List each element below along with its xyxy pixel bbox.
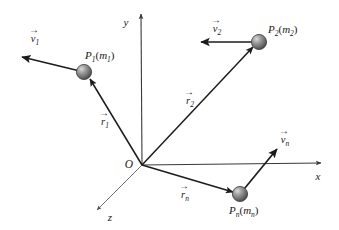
x-axis-line xyxy=(142,163,321,165)
position-vector-r1-arrow xyxy=(90,79,142,165)
x-axis-label: x xyxy=(315,170,321,182)
p1-paren-close: ) xyxy=(111,49,115,62)
coordinate-axes xyxy=(97,14,321,210)
vn-vector-accent-icon: → xyxy=(279,125,289,136)
vn-sub: n xyxy=(285,139,289,148)
y-axis-line xyxy=(141,14,142,165)
velocity-vector-vn-arrow xyxy=(240,149,277,194)
r1-sub: 1 xyxy=(105,121,109,130)
r1-vector-accent-icon: → xyxy=(99,107,109,118)
v2-vector-accent-icon: → xyxy=(211,14,221,25)
position-label-r1: r1 → xyxy=(99,107,109,130)
v1-vector-accent-icon: → xyxy=(29,24,39,35)
p2-mass-base: m xyxy=(282,23,290,35)
physics-diagram-canvas: y x z O P1(m1) P2(m2) Pn(mn) v1 → xyxy=(0,0,339,230)
position-vectors xyxy=(90,47,253,192)
particle-sphere-pn xyxy=(232,186,247,201)
z-axis-line xyxy=(97,165,142,210)
v1-sub: 1 xyxy=(35,38,39,47)
svg-text:v2: v2 xyxy=(213,23,222,37)
rn-vector-accent-icon: → xyxy=(179,180,189,191)
velocity-vectors xyxy=(22,42,277,194)
particle-sphere-p1 xyxy=(76,64,91,79)
z-axis-label: z xyxy=(107,211,113,223)
pn-paren-close: ) xyxy=(255,204,259,217)
position-label-rn: rn → xyxy=(179,180,189,203)
svg-text:P2(m2): P2(m2) xyxy=(267,23,298,38)
r2-vector-accent-icon: → xyxy=(184,86,194,97)
rn-sub: n xyxy=(185,194,189,203)
velocity-vector-v1-arrow xyxy=(22,57,84,72)
velocity-label-v1: v1 → xyxy=(29,24,39,47)
svg-text:vn: vn xyxy=(281,134,290,148)
pn-mass-base: m xyxy=(243,204,251,216)
particle-label-pn: Pn(mn) xyxy=(228,204,259,219)
velocity-label-vn: vn → xyxy=(279,125,289,148)
particle-label-p2: P2(m2) xyxy=(267,23,298,38)
position-vector-r2-arrow xyxy=(142,47,253,165)
v2-sub: 2 xyxy=(217,28,221,37)
svg-text:rn: rn xyxy=(181,189,189,203)
svg-text:P1(m1): P1(m1) xyxy=(84,49,115,64)
particle-sphere-p2 xyxy=(251,34,266,49)
velocity-label-v2: v2 → xyxy=(211,14,221,37)
svg-text:Pn(mn): Pn(mn) xyxy=(228,204,259,219)
p2-paren-close: ) xyxy=(294,23,298,36)
svg-text:v1: v1 xyxy=(31,33,39,47)
r2-sub: 2 xyxy=(190,100,194,109)
origin-label: O xyxy=(125,158,134,170)
svg-text:r2: r2 xyxy=(186,95,194,109)
y-axis-label: y xyxy=(123,16,129,28)
svg-text:r1: r1 xyxy=(101,116,109,130)
position-label-r2: r2 → xyxy=(184,86,194,109)
particle-system-figure: y x z O P1(m1) P2(m2) Pn(mn) v1 → xyxy=(0,0,339,230)
p1-mass-base: m xyxy=(99,49,107,61)
particle-label-p1: P1(m1) xyxy=(84,49,115,64)
